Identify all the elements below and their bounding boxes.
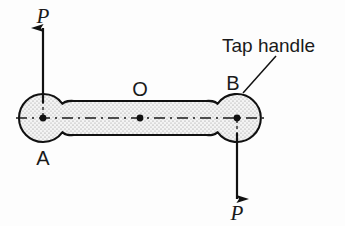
callout-label: Tap handle (222, 35, 315, 56)
force-label-top: P (36, 4, 50, 28)
point-o-dot (137, 115, 144, 122)
point-a-dot (40, 115, 47, 122)
point-b-label: B (226, 72, 239, 94)
figure-canvas: P P A B O Tap handle (0, 0, 345, 226)
point-a-label: A (36, 147, 50, 169)
tap-handle-figure: P P A B O Tap handle (0, 0, 345, 226)
force-label-bottom: P (230, 201, 244, 225)
callout-leader-line (243, 56, 276, 93)
point-b-dot (234, 115, 241, 122)
point-o-label: O (132, 78, 148, 100)
